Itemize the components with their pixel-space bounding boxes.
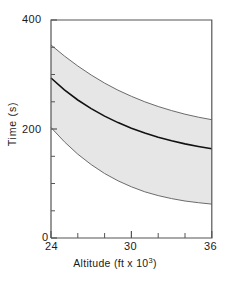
x-axis-title-suffix: )	[153, 257, 157, 269]
x-tick-label-24: 24	[45, 240, 58, 252]
x-tick-label-30: 30	[124, 240, 137, 252]
uncertainty-band	[51, 45, 212, 204]
y-tick-label-400: 400	[22, 13, 42, 25]
x-axis-title: Altitude (ft x 103)	[0, 257, 230, 269]
x-tick-label-36: 36	[204, 240, 217, 252]
chart-figure: 400 200 0 24 30 36 Altitude (ft x 103) T…	[0, 0, 230, 281]
y-axis-title: Time (s)	[6, 79, 18, 169]
x-axis-major-ticks	[51, 231, 212, 238]
y-tick-label-200: 200	[22, 123, 42, 135]
x-axis-title-text: Altitude (ft x 10	[73, 257, 148, 269]
plot-area-svg	[0, 0, 230, 281]
